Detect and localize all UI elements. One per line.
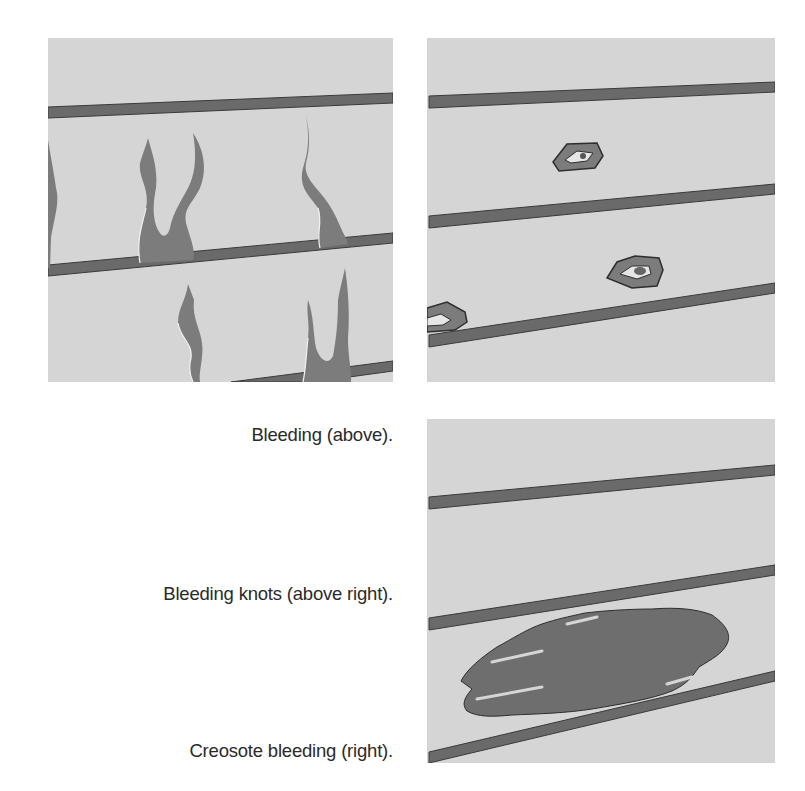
illustration-creosote-bleeding <box>427 419 775 763</box>
caption-bleeding: Bleeding (above). <box>251 424 393 446</box>
caption-creosote-bleeding: Creosote bleeding (right). <box>189 740 393 762</box>
illustration-bleeding <box>48 38 393 382</box>
knot-stain-2 <box>607 256 663 288</box>
illustration-bleeding-knots <box>427 38 775 382</box>
bleeding-illustration-svg <box>48 38 393 382</box>
caption-bleeding-knots: Bleeding knots (above right). <box>163 583 393 605</box>
flame-highlights <box>139 208 320 382</box>
knots-illustration-svg <box>427 38 775 382</box>
knot-stain-3 <box>427 302 467 332</box>
knot-stain-1 <box>553 143 603 171</box>
board-lines <box>429 82 775 347</box>
creosote-illustration-svg <box>427 419 775 763</box>
